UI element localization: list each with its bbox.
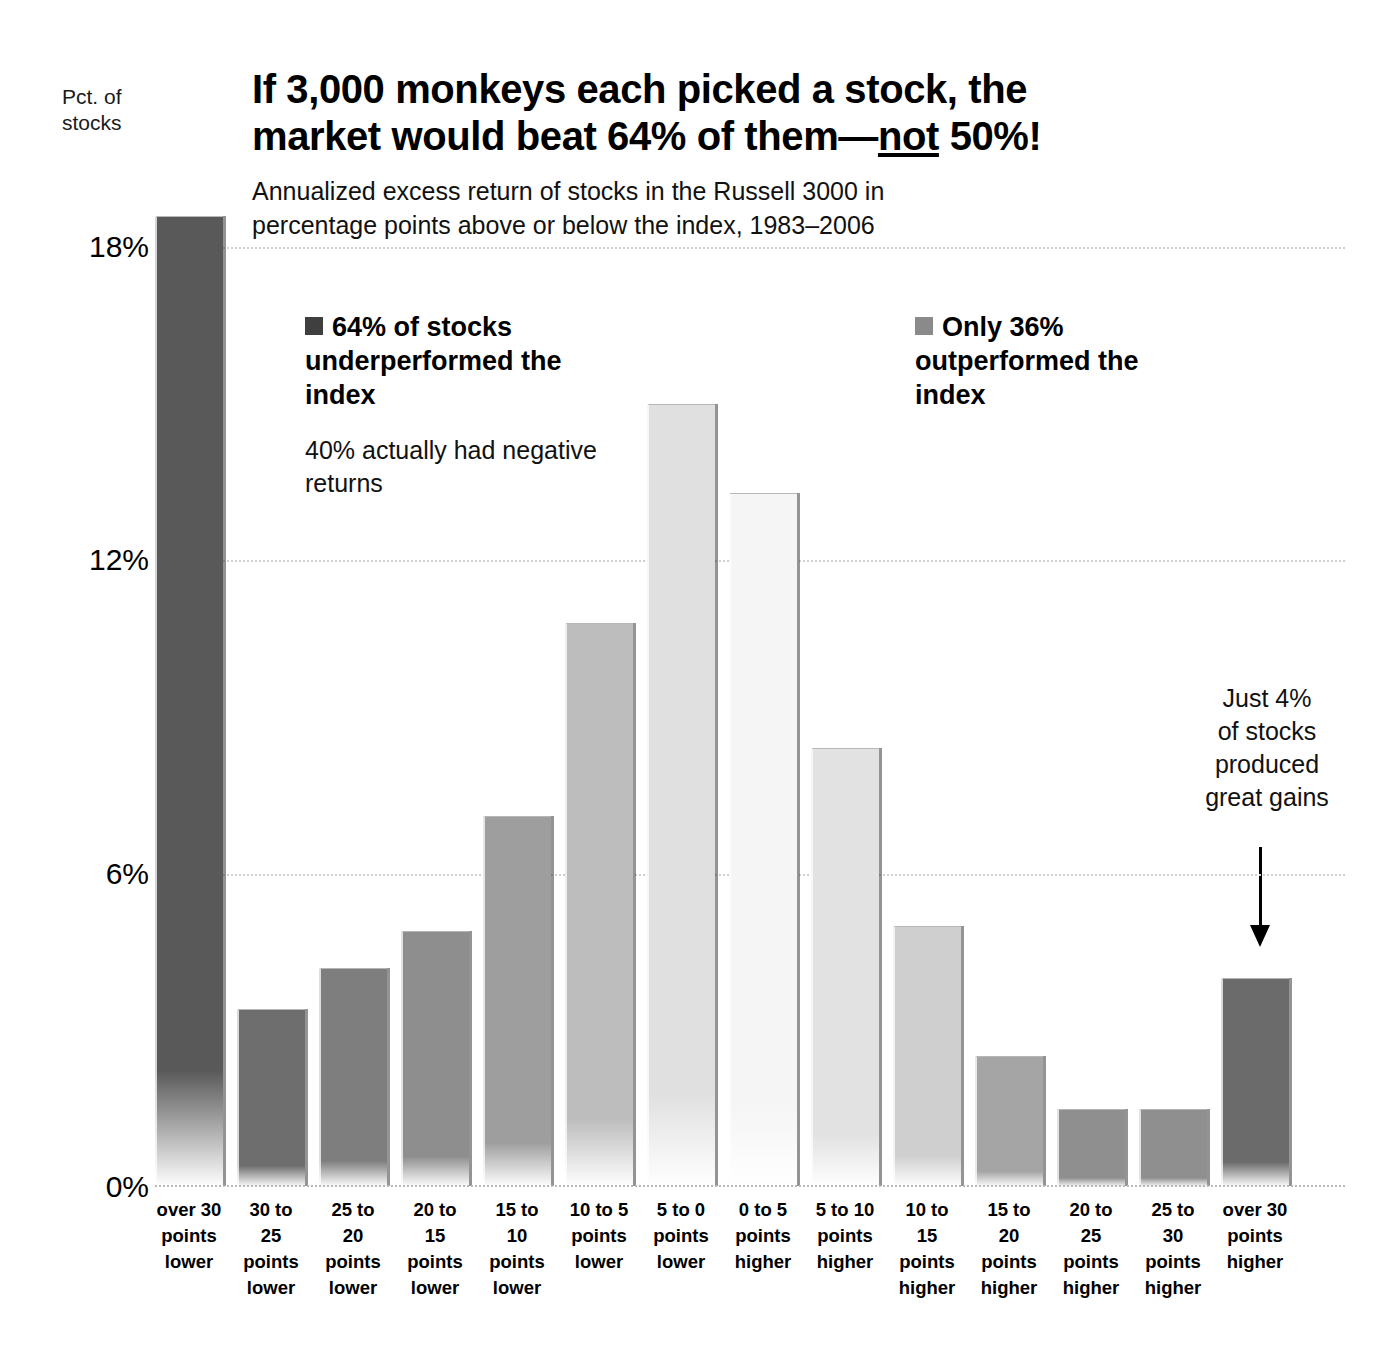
bar[interactable] xyxy=(1139,1109,1207,1187)
bar-slot xyxy=(1139,195,1207,1187)
y-tick-label-6%: 6% xyxy=(106,859,149,889)
x-axis-label: 10 to 15 points higher xyxy=(893,1197,961,1301)
bar-slot xyxy=(483,195,551,1187)
bar[interactable] xyxy=(1057,1109,1125,1187)
bar[interactable] xyxy=(1221,978,1289,1187)
bar-slot xyxy=(729,195,797,1187)
x-axis-label: 10 to 5 points lower xyxy=(565,1197,633,1301)
bar[interactable] xyxy=(155,216,223,1187)
bar[interactable] xyxy=(237,1009,305,1187)
bar-slot xyxy=(155,195,223,1187)
bar-slot xyxy=(401,195,469,1187)
x-axis-label: 20 to 25 points higher xyxy=(1057,1197,1125,1301)
x-axis-label: 20 to 15 points lower xyxy=(401,1197,469,1301)
x-axis-label: 5 to 0 points lower xyxy=(647,1197,715,1301)
bar-slot xyxy=(1221,195,1289,1187)
x-axis-label: 15 to 10 points lower xyxy=(483,1197,551,1301)
x-axis-label: over 30 points higher xyxy=(1221,1197,1289,1301)
y-axis-caption: Pct. of stocks xyxy=(62,84,154,136)
bar-slot xyxy=(237,195,305,1187)
bar-slot xyxy=(647,195,715,1187)
y-tick-label-18%: 18% xyxy=(89,232,149,262)
bar[interactable] xyxy=(483,816,551,1187)
y-tick-label-0%: 0% xyxy=(106,1172,149,1202)
bar-slot xyxy=(893,195,961,1187)
chart-page: Pct. of stocks If 3,000 monkeys each pic… xyxy=(0,0,1396,1348)
x-axis-label: 15 to 20 points higher xyxy=(975,1197,1043,1301)
x-axis-labels: over 30 points lower30 to 25 points lowe… xyxy=(155,1197,1345,1301)
title-text-part2: 50%! xyxy=(939,114,1042,158)
bar[interactable] xyxy=(811,748,879,1187)
bar-series xyxy=(155,195,1345,1187)
bar[interactable] xyxy=(319,968,387,1187)
y-tick-label-12%: 12% xyxy=(89,545,149,575)
bar[interactable] xyxy=(401,931,469,1187)
page-title: If 3,000 monkeys each picked a stock, th… xyxy=(252,66,1152,160)
bar-slot xyxy=(811,195,879,1187)
title-emphasis-not: not xyxy=(878,114,939,158)
bar-slot xyxy=(1057,195,1125,1187)
x-axis-label: 25 to 30 points higher xyxy=(1139,1197,1207,1301)
bar[interactable] xyxy=(975,1056,1043,1187)
bar[interactable] xyxy=(647,404,715,1187)
bar[interactable] xyxy=(565,623,633,1187)
axis-baseline xyxy=(155,1185,1345,1187)
bar-slot xyxy=(319,195,387,1187)
bar[interactable] xyxy=(893,926,961,1187)
x-axis-label: 30 to 25 points lower xyxy=(237,1197,305,1301)
x-axis-label: 25 to 20 points lower xyxy=(319,1197,387,1301)
x-axis-label: 0 to 5 points higher xyxy=(729,1197,797,1301)
bar[interactable] xyxy=(729,493,797,1187)
bar-slot xyxy=(565,195,633,1187)
x-axis-label: over 30 points lower xyxy=(155,1197,223,1301)
plot-area: 0%6%12%18% xyxy=(155,195,1345,1187)
x-axis-label: 5 to 10 points higher xyxy=(811,1197,879,1301)
bar-slot xyxy=(975,195,1043,1187)
